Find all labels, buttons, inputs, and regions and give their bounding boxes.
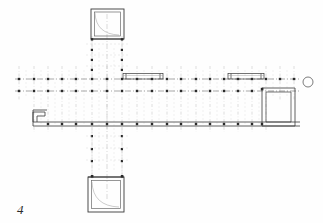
floor-plan-drawing: 4 [0,0,323,223]
east-room [262,88,295,126]
east-circle-marker [303,77,313,87]
plan-canvas [0,0,323,223]
column-dots-row-b [18,88,264,92]
north-pavilion [91,9,124,39]
north-porch-east [228,74,264,80]
grid-vertical-lines-secondary [26,48,287,170]
column-dots-row-c [47,123,263,125]
west-step-notch [33,110,47,126]
grid-vertical-lines [19,36,294,180]
figure-number-label: 4 [17,203,24,216]
axis-horizontal-lines [15,79,300,91]
south-pavilion [88,177,124,212]
